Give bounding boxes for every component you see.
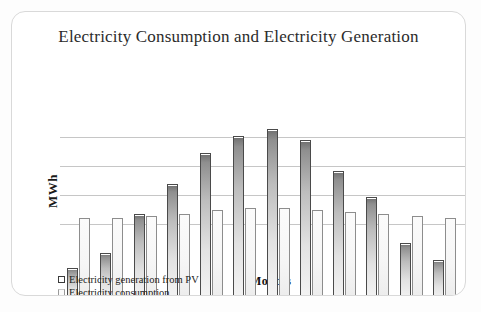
chart-legend: Electricity generation from PV Electrici… (58, 273, 199, 296)
bar-generation (267, 129, 278, 296)
legend-label: Electricity consumption (69, 287, 170, 296)
bar-consumption (445, 218, 456, 296)
bar-group (100, 115, 123, 296)
bar-consumption (279, 208, 290, 296)
bar-generation (200, 153, 211, 296)
bar-group (200, 115, 223, 296)
bar-group (300, 115, 323, 296)
legend-label: Electricity generation from PV (69, 274, 199, 285)
bar-group (433, 115, 456, 296)
bar-consumption (345, 212, 356, 296)
bar-generation (233, 136, 244, 296)
bar-consumption (378, 214, 389, 296)
bar-group (400, 115, 423, 296)
bar-group (267, 115, 290, 296)
legend-item: Electricity consumption (58, 286, 199, 296)
bar-consumption (212, 210, 223, 296)
bar-generation (366, 197, 377, 296)
legend-swatch-generation (58, 276, 65, 283)
bar-consumption (245, 208, 256, 296)
bar-group (67, 115, 90, 296)
bar-group (167, 115, 190, 296)
bar-generation (400, 243, 411, 296)
bar-group (366, 115, 389, 296)
bar-generation (433, 260, 444, 296)
plot-area (64, 115, 459, 296)
bar-generation (333, 171, 344, 296)
bar-group (233, 115, 256, 296)
page-background: Electricity Consumption and Electricity … (0, 0, 481, 312)
bar-series-container (64, 115, 459, 296)
y-axis-label: MWh (45, 174, 61, 208)
legend-item: Electricity generation from PV (58, 273, 199, 286)
legend-swatch-consumption (58, 289, 65, 296)
bar-group (333, 115, 356, 296)
bar-consumption (312, 210, 323, 296)
bar-consumption (412, 216, 423, 296)
chart-title: Electricity Consumption and Electricity … (12, 26, 465, 48)
chart-panel: Electricity Consumption and Electricity … (11, 11, 466, 296)
bar-generation (300, 140, 311, 296)
bar-group (134, 115, 157, 296)
